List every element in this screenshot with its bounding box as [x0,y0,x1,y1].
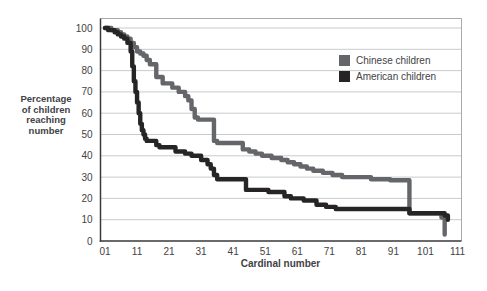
y-axis-title-line: number [6,126,86,137]
y-tick-label: 40 [81,150,93,161]
y-tick-label: 30 [81,172,93,183]
y-tick-label: 90 [81,44,93,55]
x-tick-label: 31 [196,246,208,257]
x-tick-label: 51 [260,246,272,257]
x-tick-label: 21 [164,246,176,257]
x-axis-title: Cardinal number [100,258,461,269]
x-tick-label: 71 [324,246,336,257]
plot-area: 0102030405060708090100011121314151617181… [0,0,487,291]
y-tick-label: 10 [81,214,93,225]
legend: Chinese children American children [339,52,436,84]
y-tick-label: 80 [81,65,93,76]
legend-label: Chinese children [356,55,431,66]
legend-item-chinese-children: Chinese children [339,52,436,68]
american-children-swatch [339,71,350,82]
y-axis-title-line: reaching [6,115,86,126]
x-tick-label: 81 [356,246,368,257]
legend-label: American children [356,71,436,82]
y-tick-label: 0 [87,236,93,247]
y-axis-title: Percentage of children reaching number [6,94,86,136]
y-axis-title-line: Percentage [6,94,86,105]
x-tick-label: 01 [99,246,111,257]
chinese-children-swatch [339,55,350,66]
y-tick-label: 100 [76,23,93,34]
chart: 0102030405060708090100011121314151617181… [0,0,487,291]
x-tick-label: 91 [388,246,400,257]
x-tick-label: 41 [228,246,240,257]
y-tick-label: 20 [81,193,93,204]
legend-item-american-children: American children [339,68,436,84]
x-tick-label: 11 [132,246,143,257]
x-tick-label: 111 [450,246,466,257]
x-tick-label: 101 [417,246,434,257]
x-tick-label: 61 [292,246,304,257]
